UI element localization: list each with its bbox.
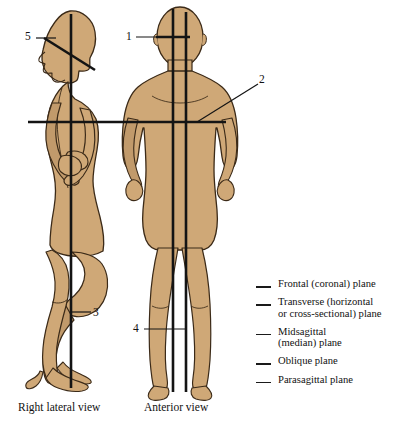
- legend-item-oblique: Oblique plane: [256, 355, 414, 367]
- legend-label-parasagittal: Parasagittal plane: [278, 374, 353, 386]
- legend-blank-icon[interactable]: [256, 286, 271, 288]
- legend-blank-icon[interactable]: [256, 304, 271, 306]
- callout-number-4: 4: [133, 322, 139, 334]
- legend-label-frontal: Frontal (coronal) plane: [278, 278, 376, 290]
- legend-blank-icon[interactable]: [256, 382, 271, 384]
- caption-anterior-view: Anterior view: [144, 401, 208, 413]
- callout-number-3: 3: [93, 306, 99, 318]
- legend-label-oblique: Oblique plane: [278, 355, 338, 367]
- figure-right-lateral: [26, 11, 108, 391]
- anterior-torso: [122, 71, 237, 250]
- callout-number-2: 2: [259, 73, 265, 85]
- anterior-hand-left: [126, 180, 143, 201]
- anterior-foot-left: [148, 386, 169, 400]
- legend: Frontal (coronal) plane Transverse (hori…: [256, 278, 414, 392]
- anterior-foot-right: [191, 386, 212, 400]
- figure-anterior: [122, 7, 237, 400]
- caption-right-lateral-view: Right lateral view: [18, 401, 100, 413]
- legend-item-transverse: Transverse (horizontal or cross-sectiona…: [256, 296, 414, 319]
- callout-number-1: 1: [126, 30, 132, 42]
- legend-blank-icon[interactable]: [256, 363, 271, 365]
- callout-number-5: 5: [25, 30, 31, 42]
- legend-label-midsagittal: Midsagittal (median) plane: [278, 326, 342, 349]
- legend-item-parasagittal: Parasagittal plane: [256, 374, 414, 386]
- legend-item-midsagittal: Midsagittal (median) plane: [256, 326, 414, 349]
- legend-item-frontal: Frontal (coronal) plane: [256, 278, 414, 290]
- anterior-hand-right: [217, 180, 234, 201]
- lateral-foot-front: [26, 371, 43, 389]
- lateral-head: [42, 11, 96, 83]
- legend-blank-icon[interactable]: [256, 334, 271, 336]
- legend-label-transverse: Transverse (horizontal or cross-sectiona…: [278, 296, 382, 319]
